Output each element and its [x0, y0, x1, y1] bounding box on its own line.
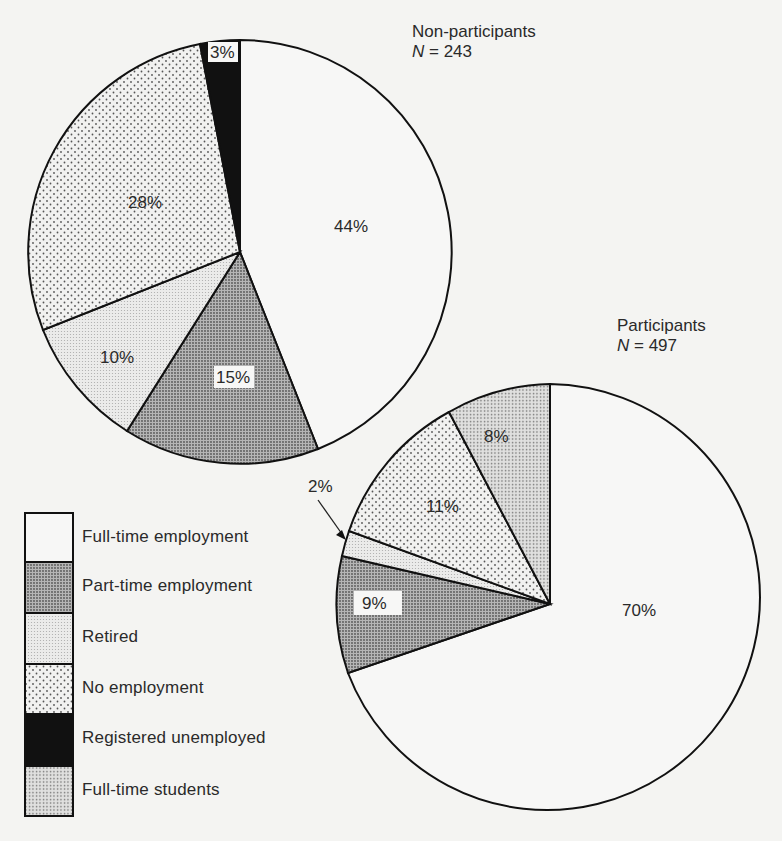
sample-size: N = 243	[412, 42, 536, 62]
non-participants-title: Non-participants N = 243	[412, 22, 536, 62]
slice-label: 70%	[622, 601, 656, 620]
swatch-no-employment	[25, 664, 73, 714]
slice-label: 10%	[100, 348, 134, 367]
slice-label: 44%	[334, 217, 368, 236]
pie-charts: 3% 44% 28% 10% 15% 8% 11% 9% 70% 2%	[0, 0, 782, 841]
chart-title: Non-participants	[412, 22, 536, 42]
swatch-retired	[25, 613, 73, 664]
pointer-arrow-line	[318, 500, 342, 534]
swatch-part-time-employment	[25, 562, 73, 613]
chart-title: Participants	[617, 316, 706, 336]
non-participants-pie: 3% 44% 28% 10% 15%	[28, 40, 451, 464]
swatch-registered-unemployed	[25, 714, 73, 766]
swatch-full-time-employment	[25, 513, 73, 562]
swatch-full-time-students	[25, 766, 73, 816]
legend-swatches	[25, 513, 73, 816]
slice-label: 3%	[210, 43, 235, 62]
arrowhead-icon	[336, 530, 346, 540]
participants-title: Participants N = 497	[617, 316, 706, 356]
slice-label: 9%	[362, 594, 387, 613]
slice-label: 28%	[128, 193, 162, 212]
slice-label: 15%	[216, 368, 250, 387]
participants-pie: 8% 11% 9% 70% 2%	[308, 384, 760, 810]
slice-label: 11%	[426, 497, 459, 516]
slice-label: 2%	[308, 477, 333, 496]
sample-size: N = 497	[617, 336, 706, 356]
slice-label: 8%	[484, 427, 509, 446]
